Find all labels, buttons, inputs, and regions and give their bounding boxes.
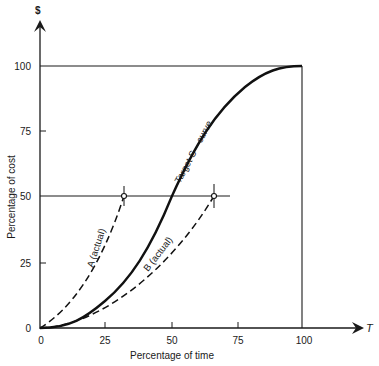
x-tick-100: 100 (296, 335, 313, 346)
y-tick-0: 0 (25, 323, 31, 334)
x-tick-50: 50 (166, 335, 178, 346)
x-tick-25: 25 (99, 335, 111, 346)
x-tick-0: 0 (38, 335, 44, 346)
y-tick-25: 25 (20, 258, 32, 269)
x-axis-symbol: T (366, 322, 374, 334)
marker-b (212, 184, 217, 208)
target-curve-label: Target S – curve (172, 119, 214, 185)
x-axis-title: Percentage of time (130, 350, 214, 361)
marker-a (122, 186, 127, 206)
y-tick-50: 50 (20, 191, 32, 202)
y-tick-100: 100 (14, 61, 31, 72)
y-axis-symbol: $ (35, 5, 41, 16)
curve-b-actual (40, 196, 214, 328)
s-curve-chart: $ T 0 25 50 75 100 0 25 50 75 100 Percen… (0, 0, 379, 366)
x-tick-75: 75 (232, 335, 244, 346)
x-ticks (105, 322, 238, 328)
y-ticks (40, 131, 46, 263)
y-axis-title: Percentage of cost (6, 155, 17, 239)
target-s-curve (40, 66, 302, 328)
y-tick-75: 75 (20, 126, 32, 137)
axes (40, 25, 358, 329)
curve-a-actual (40, 196, 124, 328)
